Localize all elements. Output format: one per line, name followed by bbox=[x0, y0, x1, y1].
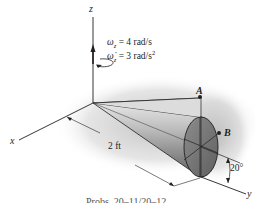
angle-dimension-label: 20° bbox=[230, 164, 243, 174]
angular-velocity-value: = 4 rad/s bbox=[119, 37, 152, 47]
omega-dot-subscript: z bbox=[114, 56, 117, 63]
dimension-extension bbox=[174, 178, 200, 186]
point-a-label: A bbox=[196, 86, 203, 96]
omega-subscript: z bbox=[114, 42, 117, 49]
point-b-marker bbox=[217, 131, 221, 135]
angular-acceleration-value: = 3 rad/s bbox=[119, 51, 152, 61]
x-axis-label: x bbox=[10, 136, 14, 146]
length-dimension-label: 2 ft bbox=[108, 142, 121, 152]
angular-acceleration-exponent: 2 bbox=[152, 49, 155, 56]
angular-velocity-label: ωz = 4 rad/s bbox=[107, 38, 152, 49]
z-axis-label: z bbox=[89, 4, 93, 14]
diagram-canvas bbox=[0, 0, 255, 203]
angular-acceleration-label: ω̇z = 3 rad/s2 bbox=[107, 50, 155, 64]
figure-caption: Probs. 20–11/20–12 bbox=[86, 197, 166, 203]
y-axis-label: y bbox=[247, 189, 251, 199]
omega-symbol: ω bbox=[107, 37, 114, 47]
point-b-label: B bbox=[224, 128, 231, 138]
rotation-arrowhead-icon bbox=[96, 65, 102, 69]
dimension-arrowhead-right bbox=[169, 182, 174, 186]
omega-dot-symbol: ω̇ bbox=[107, 51, 114, 61]
cone-rotation-diagram: z x y ωz = 4 rad/s ω̇z = 3 rad/s2 A B 2 … bbox=[0, 0, 255, 203]
